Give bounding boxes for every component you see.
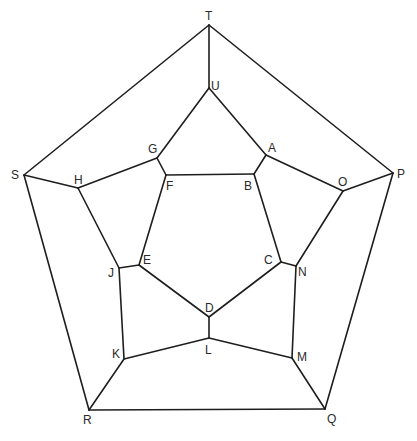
edge-d-e	[139, 265, 209, 317]
edge-m-n	[292, 266, 296, 358]
edge-u-g	[157, 88, 209, 158]
edge-t-p	[209, 25, 393, 173]
edge-a-b	[254, 155, 266, 174]
edge-c-d	[209, 262, 281, 317]
edge-h-j	[78, 188, 119, 268]
edge-r-q	[89, 409, 325, 410]
edge-f-b	[166, 174, 254, 175]
edge-s-r	[24, 175, 89, 410]
edge-k-l	[124, 338, 209, 359]
edge-g-h	[78, 158, 157, 188]
vertex-label-e: E	[143, 253, 151, 267]
edge-b-c	[254, 174, 281, 262]
edge-n-o	[296, 191, 343, 266]
vertex-label-n: N	[298, 265, 307, 279]
vertex-label-k: K	[112, 347, 120, 361]
vertex-label-j: J	[108, 266, 114, 280]
edge-o-a	[266, 155, 343, 191]
vertex-label-r: R	[83, 413, 92, 427]
edge-g-f	[157, 158, 166, 175]
vertex-label-p: P	[397, 167, 405, 181]
edge-a-u	[209, 88, 266, 155]
vertex-label-m: M	[297, 350, 307, 364]
vertex-label-f: F	[166, 179, 173, 193]
vertex-label-g: G	[148, 142, 157, 156]
edge-j-k	[119, 268, 124, 359]
edge-e-f	[139, 175, 166, 265]
edge-j-e	[119, 265, 139, 268]
edge-r-k	[89, 359, 124, 410]
vertex-label-b: B	[244, 179, 252, 193]
edge-p-o	[343, 173, 393, 191]
vertex-label-s: S	[11, 168, 19, 182]
vertex-label-d: D	[205, 301, 214, 315]
edge-p-q	[325, 173, 393, 409]
vertex-label-c: C	[264, 253, 273, 267]
edge-t-s	[24, 25, 209, 175]
vertex-label-q: Q	[327, 412, 336, 426]
vertex-label-h: H	[74, 173, 83, 187]
vertex-label-l: L	[205, 343, 212, 357]
vertex-label-a: A	[268, 141, 276, 155]
vertex-labels: TUSPRQGAHOFBECJNDLKM	[11, 9, 405, 427]
vertex-label-u: U	[211, 79, 220, 93]
vertex-label-t: T	[205, 9, 213, 23]
vertex-label-o: O	[338, 175, 347, 189]
edge-q-m	[292, 358, 325, 409]
dodecahedron-graph-diagram: TUSPRQGAHOFBECJNDLKM	[0, 0, 417, 441]
edge-l-m	[209, 338, 292, 358]
edge-s-h	[24, 175, 78, 188]
edge-n-c	[281, 262, 296, 266]
